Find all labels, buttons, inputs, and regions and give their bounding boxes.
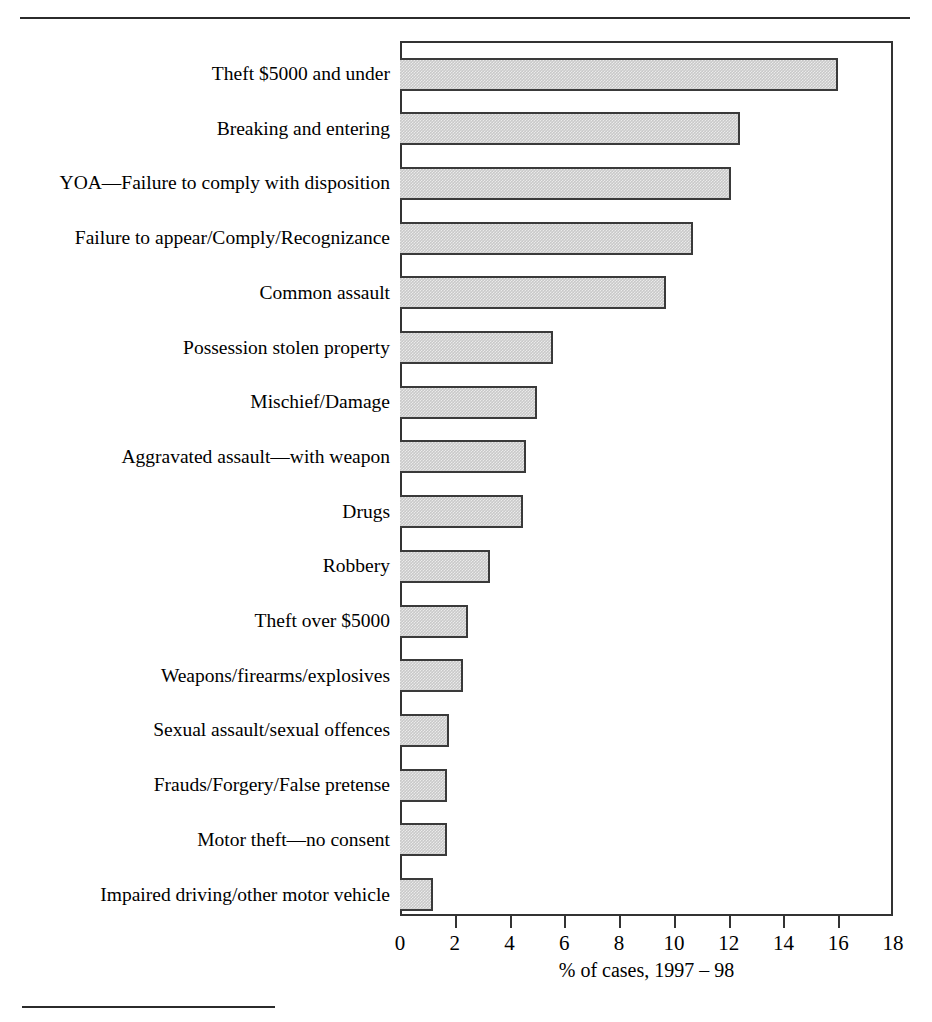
category-label: Mischief/Damage: [0, 391, 390, 413]
x-tick: [619, 916, 621, 928]
x-tick: [510, 916, 512, 928]
x-tick-label: 14: [763, 930, 803, 956]
category-label: Weapons/firearms/explosives: [0, 665, 390, 687]
x-tick-label: 18: [873, 930, 913, 956]
x-tick-label: 12: [709, 930, 749, 956]
category-label: Drugs: [0, 501, 390, 523]
bar: [400, 550, 490, 583]
bottom-horizontal-rule: [22, 1006, 275, 1008]
x-axis-title: % of cases, 1997 – 98: [400, 958, 893, 982]
x-tick: [729, 916, 731, 928]
bar: [400, 276, 666, 309]
x-tick-label: 0: [380, 930, 420, 956]
x-tick-label: 4: [490, 930, 530, 956]
x-axis-ticks: [400, 916, 893, 930]
category-axis-labels: Theft $5000 and underBreaking and enteri…: [0, 41, 390, 916]
bar: [400, 440, 526, 473]
category-label: Aggravated assault—with weapon: [0, 446, 390, 468]
x-tick-label: 10: [654, 930, 694, 956]
x-tick-label: 16: [818, 930, 858, 956]
category-label: Sexual assault/sexual offences: [0, 719, 390, 741]
category-label: Robbery: [0, 555, 390, 577]
bar: [400, 495, 523, 528]
x-tick: [674, 916, 676, 928]
category-label: YOA—Failure to comply with disposition: [0, 172, 390, 194]
category-label: Motor theft—no consent: [0, 829, 390, 851]
category-label: Breaking and entering: [0, 118, 390, 140]
bar: [400, 605, 468, 638]
bar: [400, 222, 693, 255]
bar: [400, 167, 731, 200]
top-horizontal-rule: [20, 17, 910, 19]
bar: [400, 386, 537, 419]
horizontal-bar-chart: Theft $5000 and underBreaking and enteri…: [0, 0, 932, 1022]
x-tick-label: 8: [599, 930, 639, 956]
x-tick: [838, 916, 840, 928]
bar: [400, 878, 433, 911]
bar: [400, 659, 463, 692]
bar-series: [400, 41, 893, 916]
bar: [400, 58, 838, 91]
x-tick-label: 6: [544, 930, 584, 956]
category-label: Theft $5000 and under: [0, 63, 390, 85]
bar: [400, 331, 553, 364]
category-label: Possession stolen property: [0, 337, 390, 359]
category-label: Theft over $5000: [0, 610, 390, 632]
bar: [400, 769, 447, 802]
category-label: Common assault: [0, 282, 390, 304]
x-axis-tick-labels: 024681012141618: [400, 930, 893, 958]
x-tick: [783, 916, 785, 928]
x-tick: [564, 916, 566, 928]
category-label: Failure to appear/Comply/Recognizance: [0, 227, 390, 249]
x-tick: [455, 916, 457, 928]
category-label: Impaired driving/other motor vehicle: [0, 884, 390, 906]
bar: [400, 823, 447, 856]
bar: [400, 112, 740, 145]
bar: [400, 714, 449, 747]
category-label: Frauds/Forgery/False pretense: [0, 774, 390, 796]
x-tick-label: 2: [435, 930, 475, 956]
